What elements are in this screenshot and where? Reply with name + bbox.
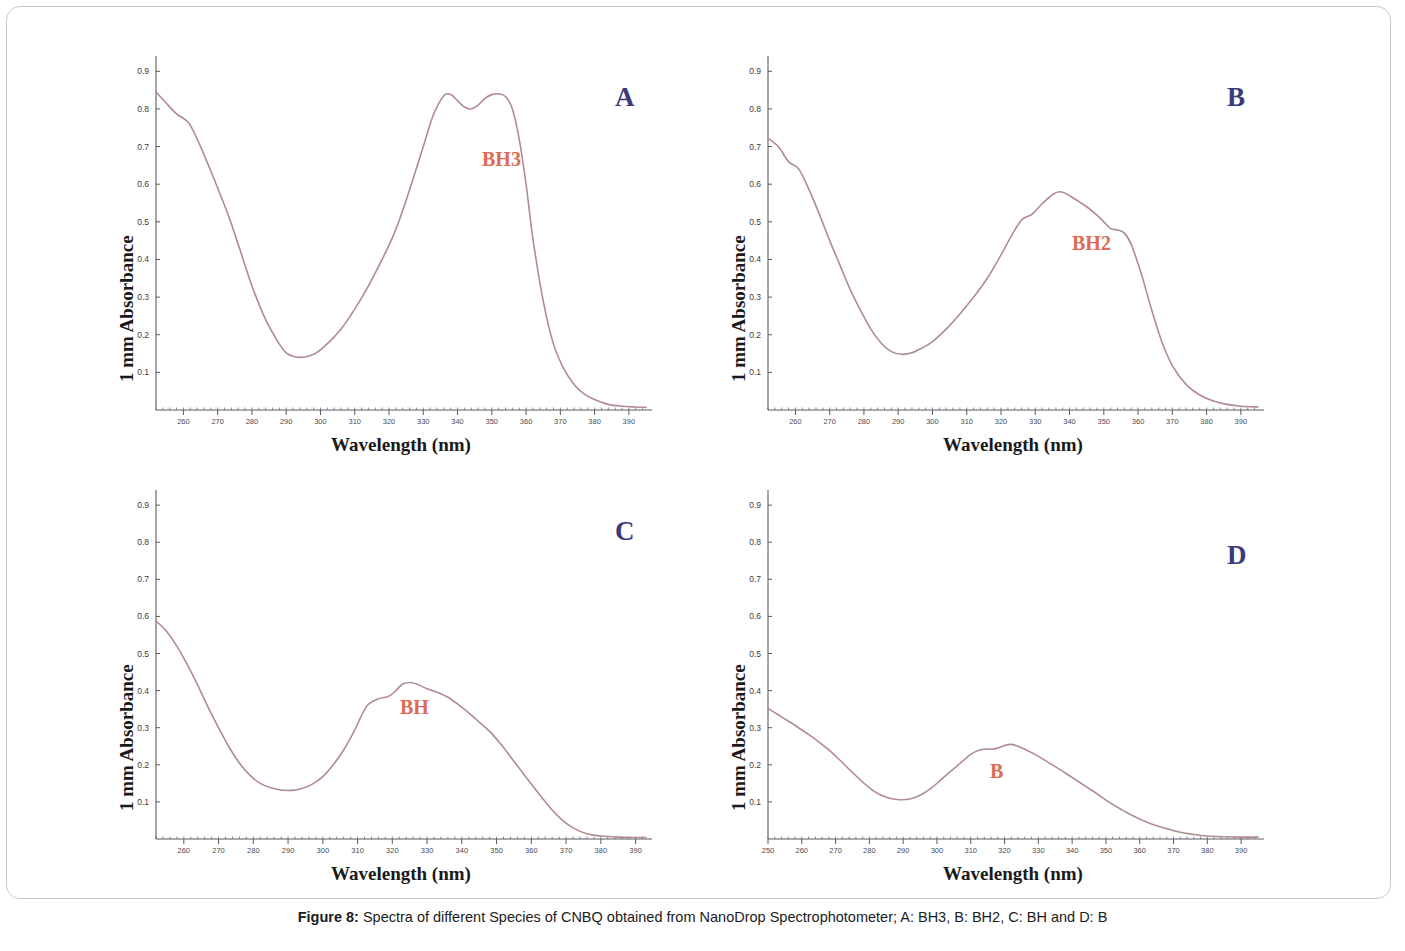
y-axis-tick-label: 0.4: [137, 686, 149, 696]
spectrum-curve-d: [768, 708, 1258, 837]
x-axis-tick-label: 330: [421, 846, 434, 855]
y-axis-tick-label: 0.3: [749, 292, 761, 302]
x-axis-title: Wavelength (nm): [768, 434, 1258, 456]
y-axis-tick-label: 0.9: [137, 66, 149, 76]
x-axis-tick-label: 340: [1063, 417, 1076, 426]
y-axis-tick-label: 0.4: [749, 254, 761, 264]
x-axis-tick-label: 300: [931, 846, 944, 855]
x-axis-tick-label: 360: [1132, 417, 1145, 426]
plot-area-a: 0.10.20.30.40.50.60.70.80.92602702802903…: [100, 40, 690, 485]
x-axis-tick-label: 280: [247, 846, 260, 855]
curve-label-c: BH: [400, 696, 429, 719]
y-axis-tick-label: 0.2: [137, 330, 149, 340]
panel-d-b: 0.10.20.30.40.50.60.70.80.92502602702802…: [712, 478, 1302, 908]
x-axis-tick-label: 340: [1066, 846, 1079, 855]
x-axis-tick-label: 380: [1200, 417, 1213, 426]
y-axis-tick-label: 0.1: [137, 367, 149, 377]
x-axis-tick-label: 290: [892, 417, 905, 426]
x-axis-tick-label: 380: [588, 417, 601, 426]
x-axis-tick-label: 270: [823, 417, 836, 426]
curve-label-d: B: [990, 760, 1003, 783]
x-axis-tick-label: 320: [998, 846, 1011, 855]
y-axis-tick-label: 0.6: [749, 611, 761, 621]
x-axis-tick-label: 250: [762, 846, 775, 855]
y-axis-tick-label: 0.1: [137, 797, 149, 807]
panel-letter-d: D: [1227, 540, 1247, 571]
y-axis-tick-label: 0.5: [137, 649, 149, 659]
x-axis-tick-label: 320: [386, 846, 399, 855]
panel-letter-c: C: [615, 516, 635, 547]
x-axis-tick-label: 290: [280, 417, 293, 426]
y-axis-tick-label: 0.2: [137, 760, 149, 770]
x-axis-tick-label: 390: [623, 417, 636, 426]
x-axis-tick-label: 340: [456, 846, 469, 855]
panel-c-bh: 0.10.20.30.40.50.60.70.80.92602702802903…: [100, 478, 690, 908]
y-axis-tick-label: 0.3: [749, 723, 761, 733]
y-axis-tick-label: 0.8: [137, 104, 149, 114]
y-axis-title: 1 mm Absorbance: [728, 235, 750, 382]
x-axis-tick-label: 310: [348, 417, 361, 426]
panel-letter-b: B: [1227, 82, 1246, 113]
curve-label-a: BH3: [482, 148, 521, 171]
x-axis-tick-label: 300: [314, 417, 327, 426]
x-axis-tick-label: 370: [1166, 417, 1179, 426]
panel-letter-a: A: [615, 82, 635, 113]
y-axis-tick-label: 0.5: [137, 217, 149, 227]
y-axis-tick-label: 0.6: [749, 179, 761, 189]
y-axis-tick-label: 0.9: [137, 500, 149, 510]
y-axis-tick-label: 0.1: [749, 797, 761, 807]
x-axis-tick-label: 360: [1133, 846, 1146, 855]
y-axis-tick-label: 0.8: [749, 104, 761, 114]
y-axis-tick-label: 0.7: [749, 574, 761, 584]
y-axis-tick-label: 0.8: [137, 537, 149, 547]
x-axis-tick-label: 360: [520, 417, 533, 426]
x-axis-tick-label: 270: [829, 846, 842, 855]
x-axis-tick-label: 350: [1100, 846, 1113, 855]
x-axis-tick-label: 260: [177, 417, 190, 426]
caption-label: Figure 8:: [298, 909, 359, 925]
x-axis-tick-label: 300: [926, 417, 939, 426]
x-axis-tick-label: 280: [858, 417, 871, 426]
spectrum-curve-b: [768, 138, 1258, 407]
spectrum-curve-a: [156, 92, 646, 407]
panel-a-bh3: 0.10.20.30.40.50.60.70.80.92602702802903…: [100, 40, 690, 485]
x-axis-title: Wavelength (nm): [768, 863, 1258, 885]
panel-b-bh2: 0.10.20.30.40.50.60.70.80.92602702802903…: [712, 40, 1302, 485]
x-axis-tick-label: 280: [863, 846, 876, 855]
x-axis-tick-label: 260: [796, 846, 809, 855]
y-axis-tick-label: 0.2: [749, 760, 761, 770]
y-axis-title: 1 mm Absorbance: [728, 664, 750, 811]
x-axis-tick-label: 330: [1032, 846, 1045, 855]
y-axis-tick-label: 0.5: [749, 649, 761, 659]
spectrum-curve-c: [156, 621, 646, 838]
x-axis-tick-label: 370: [560, 846, 573, 855]
x-axis-tick-label: 310: [960, 417, 973, 426]
caption-text: Spectra of different Species of CNBQ obt…: [359, 909, 1107, 925]
plot-area-c: 0.10.20.30.40.50.60.70.80.92602702802903…: [100, 478, 690, 908]
y-axis-tick-label: 0.5: [749, 217, 761, 227]
x-axis-tick-label: 370: [554, 417, 567, 426]
y-axis-tick-label: 0.4: [137, 254, 149, 264]
curve-label-b: BH2: [1072, 232, 1111, 255]
x-axis-tick-label: 350: [1098, 417, 1111, 426]
x-axis-tick-label: 390: [1235, 846, 1248, 855]
plot-area-d: 0.10.20.30.40.50.60.70.80.92502602702802…: [712, 478, 1302, 908]
x-axis-tick-label: 280: [246, 417, 259, 426]
y-axis-tick-label: 0.4: [749, 686, 761, 696]
y-axis-tick-label: 0.1: [749, 367, 761, 377]
x-axis-title: Wavelength (nm): [156, 863, 646, 885]
x-axis-tick-label: 270: [212, 846, 225, 855]
y-axis-tick-label: 0.3: [137, 292, 149, 302]
y-axis-tick-label: 0.7: [137, 142, 149, 152]
y-axis-tick-label: 0.6: [137, 179, 149, 189]
x-axis-tick-label: 260: [178, 846, 191, 855]
y-axis-tick-label: 0.9: [749, 66, 761, 76]
y-axis-tick-label: 0.7: [749, 142, 761, 152]
plot-area-b: 0.10.20.30.40.50.60.70.80.92602702802903…: [712, 40, 1302, 485]
x-axis-tick-label: 330: [417, 417, 430, 426]
x-axis-tick-label: 270: [211, 417, 224, 426]
x-axis-tick-label: 330: [1029, 417, 1042, 426]
x-axis-tick-label: 350: [486, 417, 499, 426]
figure-caption: Figure 8: Spectra of different Species o…: [0, 908, 1405, 927]
y-axis-tick-label: 0.2: [749, 330, 761, 340]
